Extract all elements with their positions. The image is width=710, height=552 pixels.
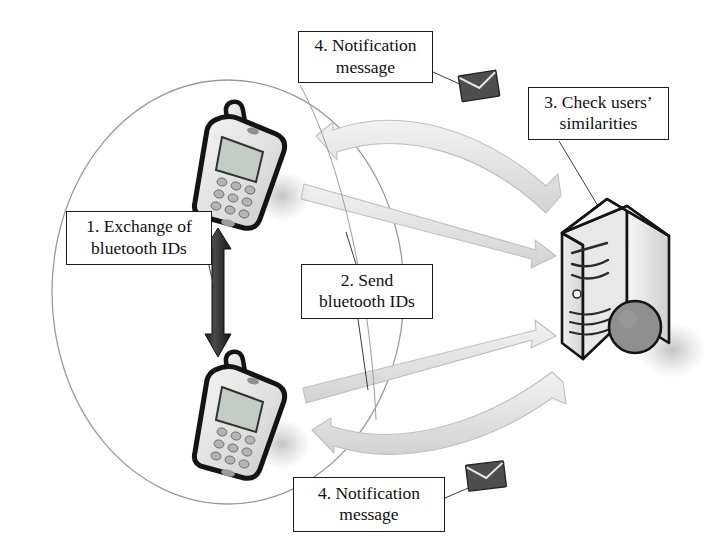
envelope-bottom-icon bbox=[466, 461, 507, 491]
envelope-top-icon bbox=[458, 70, 500, 102]
server-icon bbox=[562, 199, 706, 378]
callout-check-similarities[interactable]: 3. Check users’ similarities bbox=[528, 87, 669, 140]
leader-line-check bbox=[559, 141, 598, 206]
arrow-send-ids-top bbox=[301, 184, 556, 268]
server-disc-icon bbox=[609, 301, 661, 353]
callout-notification-bottom[interactable]: 4. Notification message bbox=[293, 477, 445, 532]
callout-send-bluetooth-ids[interactable]: 2. Send bluetooth IDs bbox=[301, 264, 433, 319]
callout-notification-top[interactable]: 4. Notification message bbox=[298, 31, 433, 83]
arrow-send-ids-bottom bbox=[303, 320, 556, 403]
phone-top-icon bbox=[194, 102, 310, 229]
phone-bottom-icon bbox=[194, 352, 310, 479]
diagram-canvas: 4. Notification message 3. Check users’ … bbox=[0, 0, 710, 552]
callout-exchange-bluetooth-ids[interactable]: 1. Exchange of bluetooth IDs bbox=[66, 211, 212, 265]
